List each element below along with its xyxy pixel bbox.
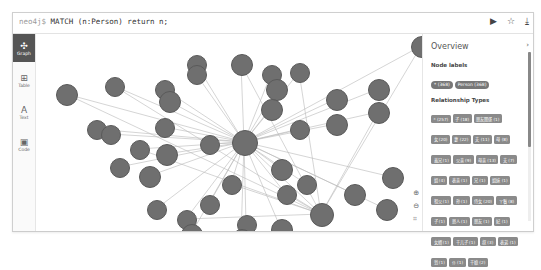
collapse-icon[interactable]: ›: [526, 41, 529, 49]
graph-node[interactable]: [232, 130, 258, 156]
graph-canvas[interactable]: ⊕ ⊖ ⌗: [36, 34, 423, 231]
node-label-pill[interactable]: Person (368): [455, 81, 490, 89]
graph-node[interactable]: [368, 79, 390, 101]
graph-node[interactable]: [326, 114, 348, 136]
view-tab-text[interactable]: A Text: [13, 98, 35, 126]
graph-node[interactable]: [368, 102, 390, 124]
relationship-type-tag[interactable]: 侍女 (20): [472, 196, 495, 205]
relationship-type-tag[interactable]: 母 (8): [494, 135, 510, 144]
relationship-type-tag[interactable]: 夫 (11): [473, 135, 492, 144]
graph-node[interactable]: [231, 54, 253, 76]
relationship-type-tag[interactable]: 兄 (1): [472, 176, 488, 185]
graph-node[interactable]: [56, 84, 78, 106]
view-tab-code[interactable]: ▣ Code: [13, 130, 35, 158]
query[interactable]: MATCH (n:Person) return n;: [51, 17, 168, 26]
node-labels-heading: Node labels: [431, 62, 523, 68]
graph-node[interactable]: [310, 203, 334, 227]
graph-icon: ✣: [20, 41, 28, 51]
result-frame: neo4j$ MATCH (n:Person) return n; ▶ ☆ ⤓ …: [12, 12, 534, 232]
relationship-type-tag[interactable]: 孙 (1): [453, 196, 469, 205]
text-icon: A: [21, 105, 27, 115]
relationship-type-tag[interactable]: 朋友 (1): [472, 217, 492, 226]
view-tab-table[interactable]: ⊞ Table: [13, 66, 35, 94]
graph-node[interactable]: [290, 120, 310, 140]
graph-node[interactable]: [200, 135, 220, 155]
graph-node[interactable]: [222, 175, 242, 195]
view-tab-label: Code: [18, 147, 30, 152]
view-tab-graph[interactable]: ✣ Graph: [13, 34, 35, 62]
graph-node[interactable]: [200, 195, 220, 215]
query-text[interactable]: neo4j$ MATCH (n:Person) return n;: [19, 17, 168, 26]
relationship-type-tag[interactable]: 義兄 (1): [431, 155, 451, 164]
download-icon[interactable]: ⤓: [525, 16, 529, 27]
graph-node[interactable]: [110, 158, 130, 178]
view-tab-label: Text: [19, 115, 28, 120]
relationship-type-tag[interactable]: 朋友関係 (1): [474, 114, 502, 123]
relationship-type-tag[interactable]: 子 (1): [431, 217, 447, 226]
relationship-type-tag[interactable]: 叔 (3): [480, 237, 496, 246]
graph-node[interactable]: [297, 175, 317, 195]
relationship-type-tag[interactable]: 子 (18): [453, 114, 472, 123]
graph-node[interactable]: [266, 79, 288, 101]
scrollbar-thumb[interactable]: [528, 52, 531, 147]
relationship-type-tag[interactable]: 夫 (7): [500, 155, 516, 164]
graph-node[interactable]: [290, 63, 310, 83]
prompt: neo4j$: [19, 17, 46, 26]
graph-node[interactable]: [376, 199, 398, 221]
relationship-type-tag[interactable]: 父亲 (9): [453, 155, 473, 164]
graph-node[interactable]: [159, 91, 181, 113]
view-tab-label: Table: [18, 83, 30, 88]
table-icon: ⊞: [20, 73, 28, 83]
graph-node[interactable]: [271, 159, 293, 181]
panel-scrollbar[interactable]: [528, 52, 531, 221]
graph-node[interactable]: [139, 166, 161, 188]
graph-node[interactable]: [261, 99, 283, 121]
graph-node[interactable]: [344, 184, 366, 206]
relationship-type-tag[interactable]: 干娘 (2): [468, 258, 488, 267]
node-label-pill[interactable]: * (368): [431, 81, 453, 89]
run-icon[interactable]: ▶: [490, 16, 497, 27]
overview-title: Overview: [431, 42, 469, 51]
relationship-type-tag[interactable]: 女婿 (1): [431, 237, 451, 246]
graph-node[interactable]: [187, 65, 207, 85]
view-sidebar: ✣ Graph ⊞ Table A Text ▣ Code: [13, 34, 36, 231]
graph-node[interactable]: [147, 200, 167, 220]
relationship-type-tag[interactable]: 妃 (1): [494, 217, 510, 226]
graph-node[interactable]: [105, 77, 125, 97]
graph-node[interactable]: [277, 185, 297, 205]
graph-node[interactable]: [101, 125, 121, 145]
star-icon[interactable]: ☆: [507, 16, 515, 27]
relationship-type-tag[interactable]: 母亲 (13): [476, 155, 499, 164]
relationship-type-tag[interactable]: 表弟 (1): [498, 237, 518, 246]
divider: [12, 231, 534, 232]
relationship-type-tag[interactable]: * (257): [431, 115, 451, 123]
relationship-type-tag[interactable]: 丫鬟 (8): [496, 196, 516, 205]
overview-panel: Overview › Node labels * (368)Person (36…: [422, 34, 533, 231]
zoom-in-icon[interactable]: ⊕: [413, 189, 419, 197]
graph-node[interactable]: [155, 118, 175, 138]
relationship-type-tag[interactable]: 翁 (1): [431, 258, 447, 267]
fit-icon[interactable]: ⌗: [413, 215, 419, 223]
relationship-type-tag[interactable]: 女 (20): [431, 135, 450, 144]
relationship-type-tag[interactable]: 表亲 (1): [449, 176, 469, 185]
zoom-controls: ⊕ ⊖ ⌗: [413, 189, 419, 223]
node-labels-list: * (368)Person (368): [431, 71, 523, 91]
graph-node[interactable]: [382, 167, 404, 189]
view-tab-label: Graph: [17, 51, 31, 56]
relationship-types-list: * (257)子 (18)朋友関係 (1)女 (20)妻 (22)夫 (11)母…: [431, 106, 523, 270]
relationship-types-heading: Relationship Types: [431, 97, 523, 103]
graph-node[interactable]: [156, 144, 178, 166]
relationship-type-tag[interactable]: 姐妹 (1): [490, 176, 510, 185]
relationship-type-tag[interactable]: 干儿子 (1): [453, 237, 477, 246]
relationship-type-tag[interactable]: 恩人 (1): [449, 217, 469, 226]
code-icon: ▣: [20, 137, 29, 147]
graph-node[interactable]: [326, 89, 348, 111]
relationship-type-tag[interactable]: 妻 (22): [452, 135, 471, 144]
relationship-type-tag[interactable]: 姐 (4): [431, 176, 447, 185]
relationship-type-tag[interactable]: 祖父 (1): [431, 196, 451, 205]
query-editor[interactable]: neo4j$ MATCH (n:Person) return n; ▶ ☆ ⤓: [13, 13, 533, 34]
graph-node[interactable]: [130, 140, 150, 160]
zoom-out-icon[interactable]: ⊖: [413, 202, 419, 210]
relationship-type-tag[interactable]: 仆 (1): [449, 258, 465, 267]
